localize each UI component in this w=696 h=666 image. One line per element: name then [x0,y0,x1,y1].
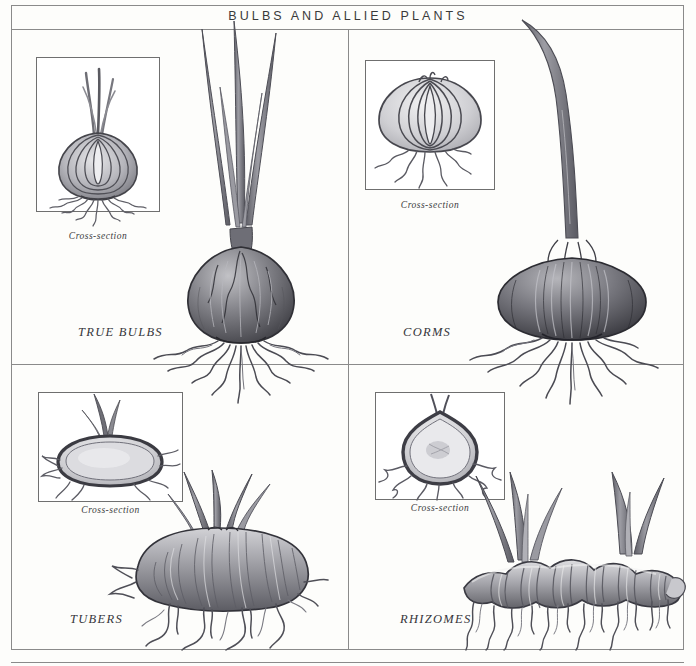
cross-section-caption-true-bulbs: Cross-section [36,231,160,241]
illustration-plate: BULBS AND ALLIED PLANTS [0,0,696,666]
quadrant-label-tubers: TUBERS [70,612,123,627]
true-bulb-main-art [150,15,340,345]
rhizome-main-art [460,470,690,650]
quadrant-label-true-bulbs: TRUE BULBS [78,325,163,340]
footer-rule [11,662,684,663]
vertical-divider [348,29,349,650]
quadrant-label-rhizomes: RHIZOMES [400,612,472,627]
true-bulb-cross-section-art [36,57,160,212]
horizontal-divider [12,364,684,365]
corm-main-art [470,14,670,344]
tuber-main-art [108,470,338,650]
quadrant-label-corms: CORMS [403,325,451,340]
